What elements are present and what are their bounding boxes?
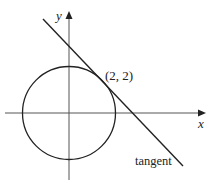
point-label: (2, 2): [105, 68, 133, 83]
tangent-label: tangent: [135, 154, 172, 168]
x-axis-label: x: [197, 116, 204, 131]
tangent-circle-diagram: y x (2, 2) tangent: [0, 0, 216, 191]
y-axis-label: y: [54, 8, 62, 23]
tangent-line: [43, 19, 183, 166]
diagram-canvas: y x (2, 2) tangent: [0, 0, 216, 191]
y-axis-arrow-icon: [66, 11, 73, 19]
